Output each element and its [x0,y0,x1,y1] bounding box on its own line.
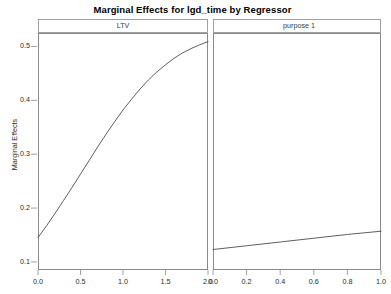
x-tick-label: 1.0 [369,278,391,285]
x-tick-label: 0.0 [26,278,50,285]
x-tick-label: 1.5 [154,278,178,285]
data-curves [38,42,381,250]
x-tick-label: 0.8 [335,278,359,285]
x-tick-label: 1.0 [111,278,135,285]
data-line [38,42,208,238]
x-tick-label: 0.5 [69,278,93,285]
x-tick-label: 0.6 [302,278,326,285]
panel-frames [39,20,381,270]
x-tick-label: 0.4 [268,278,292,285]
x-tick-label: 0.2 [235,278,259,285]
x-tick-label: 0.0 [201,278,225,285]
data-line [213,231,381,249]
axis-ticks [31,46,381,275]
